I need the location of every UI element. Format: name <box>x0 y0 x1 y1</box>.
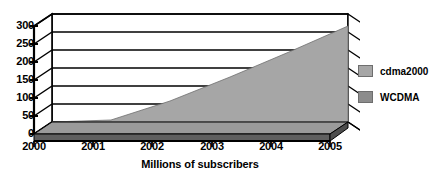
legend-swatch-icon <box>358 65 373 77</box>
legend-item-wcdma: WCDMA <box>358 84 440 110</box>
y-tick-label: 150 <box>0 74 34 85</box>
legend-item-cdma2000: cdma2000 <box>358 58 440 84</box>
legend-label: WCDMA <box>380 92 419 103</box>
x-tick-label: 2004 <box>248 140 294 152</box>
x-tick-label: 2005 <box>307 140 353 152</box>
x-tick-label: 2002 <box>129 140 175 152</box>
y-tick-label: 0 <box>0 128 34 139</box>
y-tick-label: 50 <box>0 110 34 121</box>
legend-label: cdma2000 <box>380 66 428 77</box>
y-axis-tick-labels: 300 250 200 150 100 50 0 <box>0 0 34 150</box>
chart-legend: cdma2000 WCDMA <box>358 58 440 110</box>
x-axis-title: Millions of subscribers <box>60 158 340 171</box>
x-tick-label: 2000 <box>11 140 57 152</box>
area-chart-plot <box>0 0 360 150</box>
y-tick-label: 200 <box>0 56 34 67</box>
legend-swatch-icon <box>358 91 373 103</box>
y-tick-label: 300 <box>0 20 34 31</box>
series-area-wcdma-top <box>34 122 348 134</box>
x-tick-label: 2003 <box>189 140 235 152</box>
y-tick-label: 250 <box>0 38 34 49</box>
y-tick-label: 100 <box>0 92 34 103</box>
x-tick-label: 2001 <box>70 140 116 152</box>
x-axis-tick-labels: 2000 2001 2002 2003 2004 2005 <box>0 140 360 156</box>
chart-figure: 300 250 200 150 100 50 0 2000 2001 2002 … <box>0 0 440 179</box>
